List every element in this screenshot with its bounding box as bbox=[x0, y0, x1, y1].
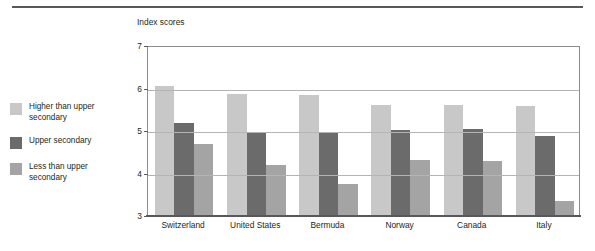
gridline bbox=[148, 132, 579, 133]
bar bbox=[299, 95, 319, 215]
bar-group bbox=[227, 47, 286, 215]
bar-group bbox=[444, 47, 503, 215]
y-axis-tick-mark bbox=[144, 46, 148, 47]
x-axis-category-label: Canada bbox=[457, 220, 486, 230]
y-axis-tick-label: 6 bbox=[124, 84, 142, 94]
bar bbox=[155, 86, 175, 215]
y-axis-tick-label: 4 bbox=[124, 169, 142, 179]
y-axis-tick-mark bbox=[144, 174, 148, 175]
bar bbox=[463, 129, 483, 215]
y-axis-tick-label: 7 bbox=[124, 41, 142, 51]
plot-area bbox=[147, 46, 580, 216]
y-axis-tick-mark bbox=[144, 216, 148, 217]
y-axis-tick-labels: 34567 bbox=[120, 46, 142, 216]
bar bbox=[516, 106, 536, 215]
bar bbox=[266, 165, 286, 215]
x-axis-category-label: Switzerland bbox=[161, 220, 204, 230]
bar-group bbox=[371, 47, 430, 215]
x-axis-category-label: Bermuda bbox=[310, 220, 344, 230]
gridline bbox=[148, 90, 579, 91]
bar bbox=[391, 130, 411, 215]
y-axis-tick-mark bbox=[144, 131, 148, 132]
x-axis-category-label: United States bbox=[230, 220, 280, 230]
x-axis-baseline bbox=[146, 215, 581, 217]
bar-group bbox=[155, 47, 214, 215]
bar bbox=[410, 160, 430, 215]
bar-chart: Index scores 34567 SwitzerlandUnited Sta… bbox=[0, 0, 595, 251]
bar bbox=[483, 161, 503, 215]
bar-group bbox=[516, 47, 575, 215]
x-axis-category-label: Norway bbox=[385, 220, 413, 230]
x-axis-category-label: Italy bbox=[536, 220, 551, 230]
y-axis-tick-label: 3 bbox=[124, 211, 142, 221]
y-axis-title: Index scores bbox=[137, 17, 184, 27]
bar bbox=[227, 94, 247, 215]
bar bbox=[338, 184, 358, 215]
bar bbox=[371, 105, 391, 216]
bar bbox=[194, 144, 214, 215]
bar bbox=[444, 105, 464, 216]
gridline bbox=[148, 175, 579, 176]
bar bbox=[174, 123, 194, 215]
bars-layer bbox=[148, 47, 579, 215]
y-axis-tick-label: 5 bbox=[124, 126, 142, 136]
bar-group bbox=[299, 47, 358, 215]
y-axis-tick-mark bbox=[144, 89, 148, 90]
bar bbox=[555, 201, 575, 215]
